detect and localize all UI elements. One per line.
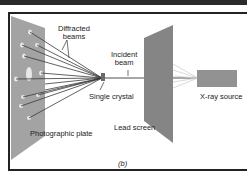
xray-diffraction-diagram <box>0 0 247 179</box>
panel-label: (b) <box>118 160 127 168</box>
single-crystal-label: Single crystal <box>89 93 134 101</box>
incident-beam-label: Incident beam <box>111 51 137 67</box>
lead-screen-label: Lead screen <box>114 124 155 132</box>
xray-source <box>197 70 237 87</box>
photographic-plate-label: Photographic plate <box>30 130 93 138</box>
source-fan <box>173 64 198 88</box>
xray-source-label: X-ray source <box>200 93 243 101</box>
single-crystal <box>101 73 105 81</box>
diffracted-beams-label: Diffracted beams <box>58 25 90 41</box>
photographic-plate <box>11 16 45 160</box>
diffracted-label-line2: beams <box>58 33 90 41</box>
incident-label-line2: beam <box>111 59 137 67</box>
